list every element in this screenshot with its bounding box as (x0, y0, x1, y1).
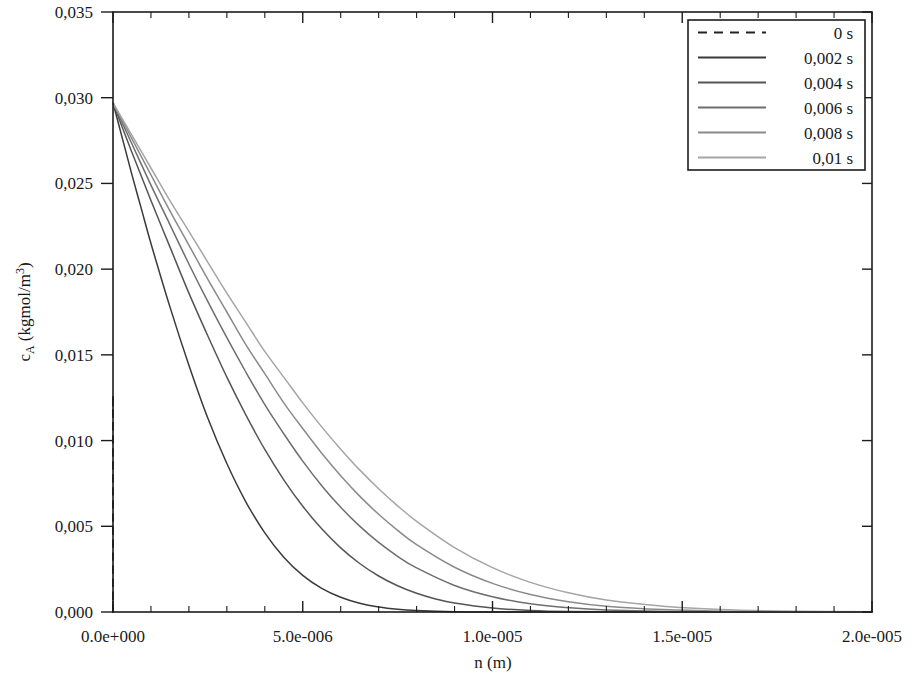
legend-box (688, 20, 865, 170)
x-tick-label: 1.0e-005 (463, 627, 523, 646)
legend: 0 s0,002 s0,004 s0,006 s0,008 s0,01 s (688, 20, 865, 170)
y-tick-label: 0,020 (55, 260, 93, 279)
y-tick-label: 0,010 (55, 432, 93, 451)
legend-label: 0,008 s (804, 124, 853, 143)
y-tick-label: 0,025 (55, 174, 93, 193)
y-tick-label: 0,005 (55, 517, 93, 536)
x-tick-label: 2.0e-005 (842, 627, 902, 646)
y-tick-label: 0,030 (55, 89, 93, 108)
concentration-profile-chart: 0.0e+0005.0e-0061.0e-0051.5e-0052.0e-005… (0, 0, 915, 698)
x-tick-label: 1.5e-005 (652, 627, 712, 646)
x-axis-title: n (m) (474, 653, 511, 672)
legend-label: 0,01 s (812, 149, 853, 168)
y-tick-label: 0,000 (55, 603, 93, 622)
y-tick-label: 0,015 (55, 346, 93, 365)
y-axis-title-tail: ) (15, 262, 34, 268)
legend-label: 0 s (834, 24, 853, 43)
legend-label: 0,006 s (804, 99, 853, 118)
y-axis-title-subscript: A (23, 345, 37, 354)
x-tick-label: 0.0e+000 (81, 627, 145, 646)
y-tick-label: 0,035 (55, 3, 93, 22)
y-axis-title-rest: (kgmol/m (15, 274, 34, 345)
legend-label: 0,004 s (804, 74, 853, 93)
figure-container: 0.0e+0005.0e-0061.0e-0051.5e-0052.0e-005… (0, 0, 915, 698)
legend-label: 0,002 s (804, 49, 853, 68)
x-tick-label: 5.0e-006 (273, 627, 333, 646)
